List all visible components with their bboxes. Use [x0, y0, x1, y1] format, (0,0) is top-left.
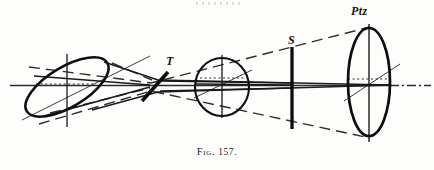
fan-line-upper-inner — [160, 81, 292, 83]
figure-container: T S Ptz Fig. 157. — [0, 0, 434, 170]
label-petzval-surface: Ptz — [351, 4, 368, 19]
fan-line-axis-inner — [196, 84, 292, 85]
astigmatism-diagram — [0, 0, 434, 170]
circle-of-least-confusion-group — [195, 55, 249, 118]
caption-prefix: Fig. — [197, 146, 215, 157]
caption-number: 157. — [218, 147, 237, 157]
petzval-surface-group — [348, 24, 390, 142]
lower-dashed-ray — [39, 91, 370, 138]
upper-dashed-ray — [29, 27, 370, 83]
figure-caption: Fig. 157. — [0, 146, 434, 157]
label-tangential-focus: T — [166, 54, 174, 69]
tangential-axis-line-right — [344, 64, 400, 101]
beam-cross-section-left-group — [16, 46, 117, 129]
tangential-axis-line-left — [22, 56, 150, 120]
label-sagittal-focus: S — [288, 33, 295, 48]
